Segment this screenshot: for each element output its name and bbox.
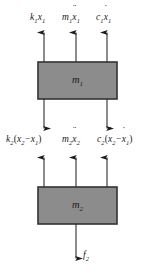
free-body-diagram: k1x1 m1¨x1 c1˙x1 m1 k2(x2−x1) m2¨x2 c2(˙…: [0, 0, 151, 276]
f2-sub: 2: [86, 255, 89, 262]
arrow-group-above-mass2: [44, 158, 107, 188]
k2-close-paren: ): [38, 134, 41, 144]
m1x1ddot-sub2: 1: [77, 17, 80, 24]
m2x2ddot-sub: 2: [77, 139, 80, 146]
label-m1x1ddot: m1¨x1: [62, 13, 80, 24]
m2x2ddot-varwrap: ¨x: [72, 135, 76, 145]
c2-close-paren: ): [129, 134, 132, 144]
mass1-sub: 1: [80, 80, 84, 88]
c1x1dot-sub2: 1: [108, 17, 111, 24]
label-k1x1: k1x1: [30, 13, 45, 24]
label-mass-1: m1: [72, 75, 83, 88]
label-f2: f2: [83, 251, 89, 262]
mass1-base: m: [72, 74, 80, 85]
label-c1x1dot: c1˙x1: [96, 13, 111, 24]
m1x1ddot-varwrap: ¨x: [72, 13, 76, 23]
mass2-sub: 2: [80, 205, 84, 213]
c2-x1dot-wrap: ˙x: [122, 135, 126, 145]
m2-base: m: [62, 134, 69, 144]
mass2-base: m: [72, 199, 80, 210]
label-m2x2ddot: m2¨x2: [62, 135, 80, 146]
label-k2-x2-x1: k2(x2−x1): [6, 135, 42, 146]
arrow-group-below-mass1: [44, 99, 107, 129]
label-mass-2: m2: [72, 200, 83, 213]
arrow-group-above-mass1: [44, 33, 107, 63]
c2-x2dot-wrap: ˙x: [108, 135, 112, 145]
k1x1-sub2: 1: [42, 17, 45, 24]
label-c2-x2dot-x1dot: c2(˙x2−˙x1): [97, 135, 133, 146]
m1x1ddot-base: m: [62, 12, 69, 22]
c1x1dot-varwrap: ˙x: [104, 13, 108, 23]
